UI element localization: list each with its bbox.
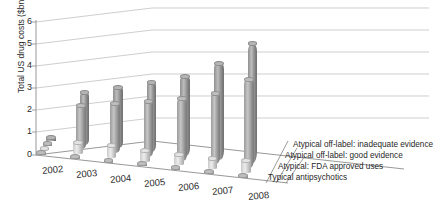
bar-typical-2003 [70, 156, 80, 159]
bar-cap [104, 158, 114, 163]
bar-good-evidence-2007 [211, 93, 221, 164]
bar-cap [73, 140, 83, 145]
x-tick-2007: 2007 [211, 184, 233, 197]
bar-typical-2007 [204, 171, 214, 174]
x-tick-2003: 2003 [75, 167, 97, 180]
x-tick-2006: 2006 [177, 180, 199, 193]
bar-cap [208, 156, 218, 161]
bar-cap [43, 141, 53, 146]
bar-fda-approved-2003 [73, 142, 83, 154]
bar-cap [174, 152, 184, 157]
bar-cap [113, 85, 123, 90]
legend-item-inadequate-evidence: Atypical off-label: inadequate evidence [293, 141, 433, 149]
bar-fda-approved-2005 [140, 151, 150, 162]
bar-fda-approved-2006 [174, 154, 184, 165]
bar-typical-2004 [104, 160, 114, 163]
bar-cap [180, 74, 190, 79]
bar-body [244, 79, 254, 168]
bar-cap [214, 61, 224, 66]
x-tick-2008: 2008 [247, 189, 269, 202]
bar-typical-2006 [171, 168, 181, 171]
bar-cap [110, 101, 120, 106]
x-tick-2002: 2002 [41, 163, 63, 176]
bar-cap [147, 80, 157, 85]
bar-cap [70, 154, 80, 159]
bar-typical-2002 [36, 153, 46, 156]
x-tick-2005: 2005 [143, 176, 165, 189]
x-tick-2004: 2004 [109, 172, 131, 185]
bar-cap [177, 96, 187, 101]
bar-typical-2008 [238, 175, 248, 178]
legend-item-good-evidence: Atypical off-label: good evidence [285, 152, 403, 160]
bar-cap [244, 77, 254, 82]
bar-cap [204, 169, 214, 174]
bar-cap [76, 103, 86, 108]
bar-fda-approved-2007 [208, 158, 218, 169]
bar-good-evidence-2008 [244, 79, 254, 168]
bar-fda-approved-2008 [241, 161, 251, 173]
bar-cap [238, 173, 248, 178]
bar-cap [144, 99, 154, 104]
bar-typical-2005 [137, 164, 147, 167]
bar-fda-approved-2004 [107, 146, 117, 158]
bar-body [211, 93, 221, 164]
legend-item-typical: Typical antipsychotics [268, 174, 347, 182]
legend-item-fda-approved: Atypical: FDA approved uses [278, 163, 383, 171]
